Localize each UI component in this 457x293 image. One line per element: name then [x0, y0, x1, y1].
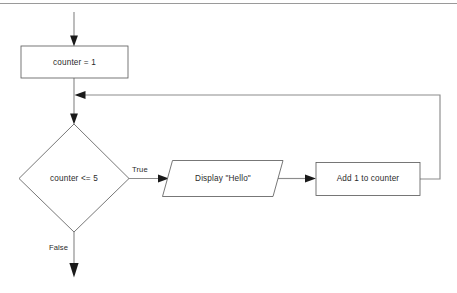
connector-true-branch — [129, 175, 169, 183]
arrowhead-down-icon — [70, 114, 78, 125]
flowchart-canvas: counter = 1 counter <= 5 Display "Hello"… — [0, 0, 457, 293]
connector-false-branch — [69, 232, 78, 278]
io-node-display-label: Display "Hello" — [195, 174, 251, 183]
flowchart-svg: counter = 1 counter <= 5 Display "Hello"… — [0, 0, 457, 293]
process-node-increment-label: Add 1 to counter — [337, 174, 400, 183]
connector-entry-to-init — [70, 12, 78, 47]
process-node-init-label: counter = 1 — [53, 58, 96, 67]
arrowhead-down-icon — [70, 36, 78, 47]
edge-label-false: False — [49, 243, 68, 252]
connector-display-to-increment — [278, 175, 316, 183]
arrowhead-down-icon — [69, 263, 78, 278]
arrowhead-right-icon — [305, 175, 316, 183]
edge-label-true: True — [132, 165, 148, 174]
arrowhead-left-icon — [75, 91, 86, 99]
connector-init-to-decision — [70, 78, 78, 125]
decision-node-condition-label: counter <= 5 — [50, 174, 98, 183]
